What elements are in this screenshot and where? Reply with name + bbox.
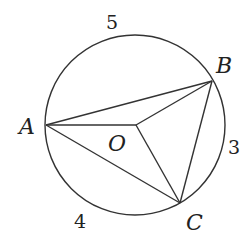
point-label-o: O <box>108 131 126 156</box>
geometry-diagram: A B C O 5 3 4 <box>0 0 251 239</box>
arc-label-bc: 3 <box>228 136 240 158</box>
arc-label-ca: 4 <box>74 210 86 232</box>
segment-bc <box>180 81 212 203</box>
segment-ab <box>46 81 212 125</box>
point-label-b: B <box>215 53 232 78</box>
arc-label-ab: 5 <box>106 11 118 33</box>
point-label-a: A <box>17 114 35 139</box>
point-label-c: C <box>186 210 203 235</box>
segment-ob <box>136 81 212 125</box>
segment-oc <box>136 125 180 203</box>
